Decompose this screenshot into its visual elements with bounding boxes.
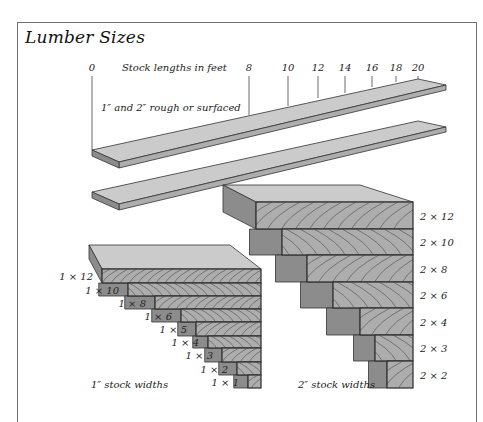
plank-top-surface <box>92 79 446 162</box>
two-inch-size-label: 2 × 12 <box>419 211 454 222</box>
length-tick-label: 0 <box>89 62 96 73</box>
one-inch-size-label: 1 × 8 <box>119 298 146 309</box>
one-inch-size-label: 1 × 2 <box>201 364 228 375</box>
two-inch-size-label: 2 × 8 <box>419 264 447 275</box>
length-tick-label: 8 <box>246 62 252 73</box>
two-inch-caption: 2″ stock widths <box>297 379 375 390</box>
length-tick-label: 16 <box>366 62 379 73</box>
two-inch-size-label: 2 × 3 <box>419 343 447 354</box>
one-inch-size-label: 1 × 5 <box>160 324 187 335</box>
plank-caption: 1″ and 2″ rough or surfaced <box>101 102 241 113</box>
two-inch-size-label: 2 × 6 <box>419 290 448 301</box>
two-inch-side-face <box>250 229 283 255</box>
one-inch-size-label: 1 × 10 <box>85 285 119 296</box>
two-inch-board-face <box>360 308 413 335</box>
length-tick-label: 10 <box>282 62 295 73</box>
one-inch-size-label: 1 × 6 <box>145 311 173 322</box>
length-tick-label: 20 <box>411 62 425 73</box>
one-inch-caption: 1″ stock widths <box>91 379 168 390</box>
one-inch-size-label: 1 × 4 <box>172 337 199 348</box>
length-tick-label: 14 <box>339 62 352 73</box>
two-inch-size-label: 2 × 4 <box>419 317 447 328</box>
two-inch-side-face <box>276 255 308 282</box>
two-inch-board-face <box>282 229 413 255</box>
one-inch-top-surface <box>89 245 261 269</box>
two-inch-side-face <box>327 308 361 335</box>
one-inch-board-face <box>208 336 261 348</box>
length-tick-label: 18 <box>390 62 403 73</box>
one-inch-size-label: 1 × 12 <box>59 271 93 282</box>
two-inch-size-label: 2 × 2 <box>419 370 447 381</box>
one-inch-size-label: 1 × 1 <box>212 377 239 388</box>
stock-lengths-heading: Stock lengths in feet <box>122 62 228 73</box>
one-inch-size-label: 1 × 3 <box>186 350 213 361</box>
two-inch-board-face <box>333 282 413 308</box>
two-inch-side-face <box>354 335 376 361</box>
length-tick-label: 12 <box>312 62 325 73</box>
two-inch-board-face <box>307 255 413 282</box>
two-inch-board-face <box>387 361 413 388</box>
two-inch-size-label: 2 × 10 <box>419 237 454 248</box>
two-inch-side-face <box>301 282 334 308</box>
